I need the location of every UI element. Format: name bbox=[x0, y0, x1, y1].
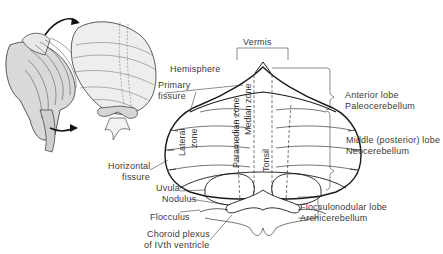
label-uvula: Uvula bbox=[156, 183, 180, 194]
label-archicerebellum: Archicerebellum bbox=[300, 213, 368, 224]
label-choroid-plexus-2: of IVth ventricle bbox=[144, 240, 209, 251]
label-nodulus: Nodulus bbox=[162, 194, 196, 205]
label-primary-fissure-2: fissure bbox=[158, 91, 186, 102]
label-flocculonodular-lobe: Flocculonodular lobe bbox=[300, 202, 387, 213]
label-median-zone: Median zone bbox=[243, 83, 253, 135]
label-lateral-zone-2: zone bbox=[189, 128, 199, 148]
label-anterior-lobe: Anterior lobe bbox=[345, 90, 399, 101]
label-middle-lobe: Middle (posterior) lobe bbox=[346, 135, 440, 146]
cerebellum-diagram bbox=[0, 0, 443, 254]
label-vermis: Vermis bbox=[243, 37, 272, 48]
label-primary-fissure-1: Primary bbox=[158, 80, 190, 91]
label-horizontal-fissure-2: fissure bbox=[122, 172, 150, 183]
label-neocerebellum: Neocerebellum bbox=[346, 146, 409, 157]
label-horizontal-fissure-1: Horizontal bbox=[108, 161, 151, 172]
label-paleocerebellum: Paleocerebellum bbox=[345, 101, 415, 112]
label-choroid-plexus-1: Choroid plexus bbox=[147, 229, 210, 240]
label-tonsil: Tonsil bbox=[261, 149, 271, 172]
label-paramedian-zone: Paramedian zone bbox=[231, 97, 241, 168]
label-lateral-zone-1: Lateral bbox=[177, 128, 187, 156]
label-flocculus: Flocculus bbox=[150, 212, 190, 223]
label-hemisphere: Hemisphere bbox=[170, 64, 221, 75]
brainstem-illustration bbox=[6, 33, 82, 152]
